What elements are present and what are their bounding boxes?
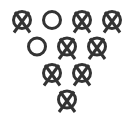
pin-standing-icon	[44, 12, 61, 29]
bowling-pin-diagram	[0, 0, 129, 120]
pin-layout	[14, 12, 121, 113]
pin-knocked-icon	[14, 12, 31, 33]
pin-knocked-icon	[74, 12, 91, 33]
pin-knocked-icon	[59, 38, 76, 59]
pin-knocked-icon	[59, 91, 76, 112]
pin-knocked-icon	[44, 65, 61, 86]
pin-knocked-icon	[104, 12, 121, 33]
pin-circle	[44, 12, 61, 29]
pin-knocked-icon	[89, 38, 106, 59]
pin-knocked-icon	[74, 65, 91, 86]
pin-standing-icon	[29, 38, 46, 55]
pin-circle	[29, 38, 46, 55]
